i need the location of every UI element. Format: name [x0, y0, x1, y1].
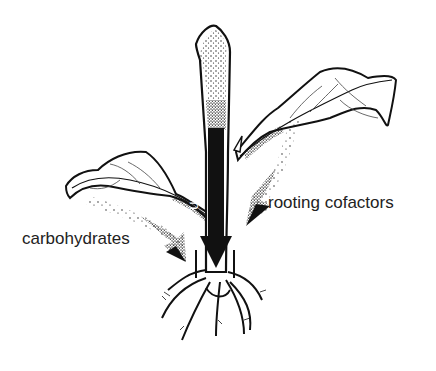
roots	[162, 270, 266, 340]
carbohydrates-label: carbohydrates	[22, 229, 130, 249]
right-leaf	[236, 68, 396, 160]
plant-cutting-diagram	[0, 0, 436, 371]
auxin-label: auxin	[187, 174, 204, 210]
rooting-cofactors-label: rooting cofactors	[268, 193, 394, 213]
